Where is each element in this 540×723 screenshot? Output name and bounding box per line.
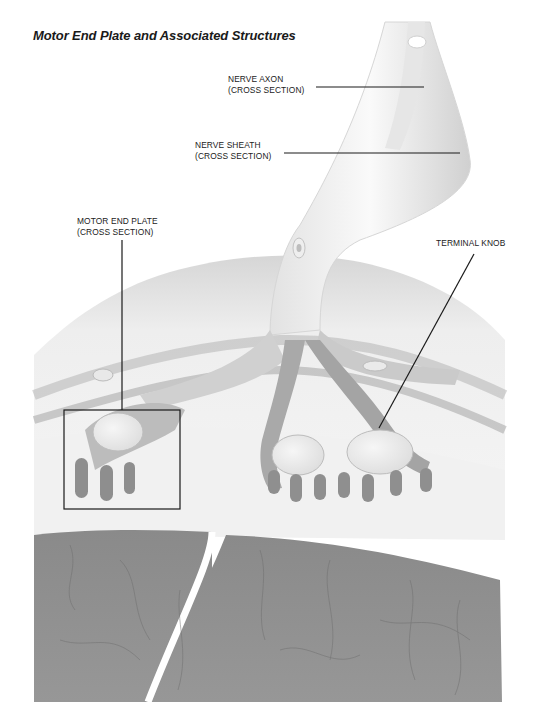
motor-end-plate-illustration bbox=[0, 0, 540, 723]
label-nerve-sheath: NERVE SHEATH (CROSS SECTION) bbox=[195, 140, 271, 161]
figure-title: Motor End Plate and Associated Structure… bbox=[33, 28, 296, 43]
label-nerve-axon: NERVE AXON (CROSS SECTION) bbox=[228, 74, 304, 95]
label-motor-end-plate: MOTOR END PLATE (CROSS SECTION) bbox=[77, 216, 158, 237]
label-terminal-knob: TERMINAL KNOB bbox=[436, 238, 505, 249]
muscle-fiber bbox=[34, 530, 502, 702]
